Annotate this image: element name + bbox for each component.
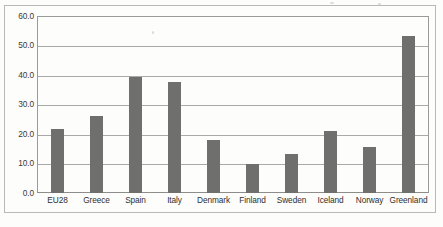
x-axis-tick-label: Norway (350, 195, 389, 205)
y-axis-tick-label: 30.0 (2, 99, 34, 109)
scan-speckle (152, 31, 154, 34)
bar-norway (363, 147, 377, 193)
y-axis-tick-label: 60.0 (2, 11, 34, 21)
bar-italy (168, 82, 182, 193)
x-axis-tick-label: Sweden (272, 195, 311, 205)
y-axis-tick-label: 40.0 (2, 70, 34, 80)
x-axis-tick-labels: EU28GreeceSpainItalyDenmarkFinlandSweden… (38, 195, 428, 211)
bar-denmark (207, 140, 221, 193)
x-axis-tick-label: EU28 (38, 195, 77, 205)
bar-iceland (324, 131, 338, 193)
x-axis-tick-label: Italy (155, 195, 194, 205)
x-axis-tick-label: Greenland (389, 195, 428, 205)
y-axis-tick-label: 0.0 (2, 188, 34, 198)
y-axis-tick-label: 10.0 (2, 158, 34, 168)
bar-chart-figure: 60.050.040.030.020.010.00.0 EU28GreeceSp… (0, 0, 443, 227)
y-axis-tick-label: 50.0 (2, 40, 34, 50)
x-axis-tick-label: Spain (116, 195, 155, 205)
bar-eu28 (51, 129, 65, 193)
y-axis-tick-labels: 60.050.040.030.020.010.00.0 (0, 16, 34, 193)
bar-sweden (285, 154, 299, 193)
bar-greece (90, 116, 104, 193)
x-axis-tick-label: Greece (77, 195, 116, 205)
scan-speckle (378, 3, 381, 5)
x-axis-tick-label: Iceland (311, 195, 350, 205)
scan-speckle (330, 2, 334, 4)
y-axis-tick-label: 20.0 (2, 129, 34, 139)
x-axis-tick-label: Denmark (194, 195, 233, 205)
bars-layer (38, 17, 428, 193)
x-axis-tick-label: Finland (233, 195, 272, 205)
bar-finland (246, 164, 260, 193)
bar-spain (129, 77, 143, 193)
bar-greenland (402, 36, 416, 193)
